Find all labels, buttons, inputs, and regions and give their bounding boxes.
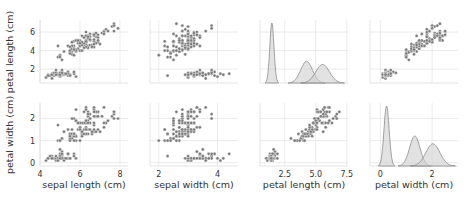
row1-ylabel: petal length (cm) <box>4 11 15 93</box>
y-tick-label: 1 <box>30 137 35 146</box>
col2-xlabel: sepal width (cm) <box>154 179 233 190</box>
x-tick-label: 2.5 <box>278 170 291 179</box>
kde-setosa <box>378 106 395 166</box>
x-tick-label: 5.0 <box>309 170 322 179</box>
y-tick-label: 6 <box>30 28 35 37</box>
x-tick-label: 8 <box>117 170 122 179</box>
y-tick-label: 0 <box>30 159 35 168</box>
col3-xlabel: petal length (cm) <box>263 179 345 190</box>
panel-r2-c2: 24 <box>150 103 238 179</box>
y-tick-label: 2 <box>30 65 35 74</box>
panel-r1-c1: 246 <box>30 20 128 83</box>
panel-r2-c1: 012468 <box>30 103 128 179</box>
x-tick-label: 2 <box>156 170 161 179</box>
x-tick-label: 4 <box>215 170 220 179</box>
panel-r1-c4 <box>370 20 458 83</box>
panel-r1-c3 <box>260 20 348 83</box>
panel-r2-c4: 02 <box>370 103 458 179</box>
x-tick-label: 4 <box>37 170 42 179</box>
col1-xlabel: sepal length (cm) <box>42 179 126 190</box>
y-tick-label: 2 <box>30 114 35 123</box>
x-tick-label: 6 <box>77 170 82 179</box>
x-tick-label: 7.5 <box>340 170 353 179</box>
panel-r2-c3: 2.55.07.5 <box>260 103 353 179</box>
row2-ylabel: petal width (cm) <box>4 96 15 174</box>
x-tick-label: 2 <box>430 170 435 179</box>
pairplot-figure: 246012468242.55.07.502 petal length (cm)… <box>0 0 473 201</box>
panels-group: 246012468242.55.07.502 <box>30 20 458 179</box>
panel-r1-c2 <box>150 20 238 83</box>
x-tick-label: 0 <box>378 170 383 179</box>
col4-xlabel: petal width (cm) <box>375 179 453 190</box>
y-tick-label: 4 <box>30 47 35 56</box>
